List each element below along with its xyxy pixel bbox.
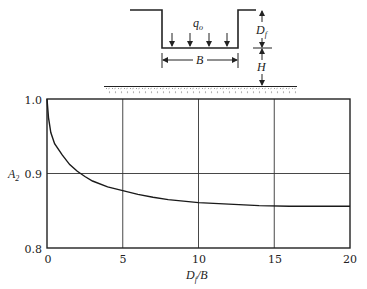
x-axis-label: Df/B: [185, 268, 208, 284]
depth-label: Df: [255, 23, 269, 39]
chart-figure: qo B Df H: [0, 0, 367, 289]
layer-thickness-label: H: [256, 60, 267, 74]
load-arrows: [172, 33, 227, 46]
y-tick-0.9: 0.9: [25, 168, 43, 181]
plot-area: [47, 99, 350, 248]
foundation-schematic: qo B Df H: [104, 10, 297, 94]
y-axis: 1.0 0.9 0.8 A2: [7, 94, 42, 256]
load-label: qo: [193, 16, 203, 32]
x-tick-15: 15: [268, 253, 282, 266]
width-label: B: [196, 53, 204, 67]
grid-lines: [47, 99, 350, 248]
x-tick-10: 10: [192, 253, 206, 266]
y-tick-0.8: 0.8: [25, 243, 43, 256]
x-axis: 0 5 10 15 20 Df/B: [45, 253, 358, 284]
x-tick-20: 20: [343, 253, 357, 266]
x-tick-5: 5: [120, 253, 127, 266]
x-tick-0: 0: [45, 253, 52, 266]
y-tick-1.0: 1.0: [25, 94, 43, 107]
y-axis-label: A2: [7, 167, 19, 183]
rigid-layer: [104, 87, 297, 94]
